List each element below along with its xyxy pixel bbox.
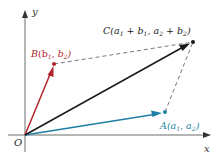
point-b	[52, 62, 56, 66]
x-axis-label: x	[204, 143, 210, 154]
point-b-label: B(b1, b2)	[30, 48, 72, 60]
point-a-label: A(a1, a2)	[159, 120, 200, 132]
vector-b	[25, 62, 56, 135]
x-axis-arrow-icon	[203, 132, 211, 138]
vector-b-arrow-icon	[48, 66, 54, 77]
y-axis-arrow-icon	[22, 10, 28, 18]
point-a	[163, 110, 167, 114]
dashed-a-to-c	[165, 42, 193, 112]
y-axis-label: y	[31, 6, 38, 17]
vector-diagram: y x O B(b1, b2) C(a1 + b1, a2 + b2) A(a1…	[0, 0, 217, 159]
origin-label: O	[14, 137, 22, 148]
vector-c-arrow-icon	[179, 44, 190, 52]
vector-a-arrow-icon	[151, 111, 162, 118]
point-c-label: C(a1 + b1, a2 + b2)	[103, 25, 191, 37]
point-c	[191, 40, 195, 44]
